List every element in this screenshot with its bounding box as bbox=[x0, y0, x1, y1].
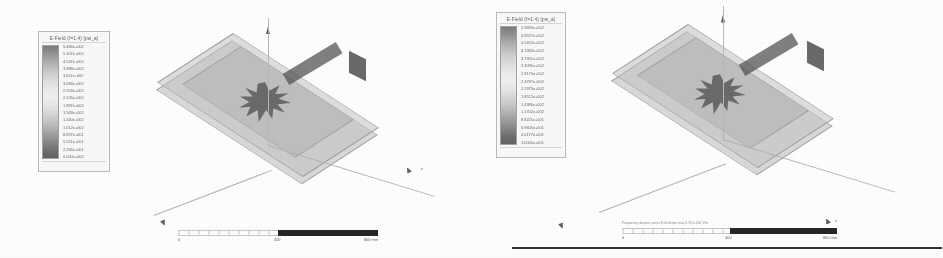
legend-footer-divider bbox=[42, 161, 106, 166]
legend-body: 5.3695e+002 4.9527e+002 4.5452e+002 4.13… bbox=[500, 26, 562, 145]
ruler-label-end: 800 mm bbox=[823, 235, 837, 240]
colorbar-tick: 8.837e+001 bbox=[63, 133, 106, 137]
colorbar-tick: 0.000e+000 bbox=[63, 155, 106, 159]
simulation-view-left: E-Field (f=1.4) [pw_a] 5.466e+002 5.107e… bbox=[0, 0, 500, 258]
colorbar-tick: 1.897e+002 bbox=[63, 104, 106, 108]
colorbar-tick: 4.0177e+001 bbox=[521, 133, 562, 137]
ruler-filled-segment bbox=[730, 228, 838, 234]
colorbar-tick: 4.5452e+002 bbox=[521, 41, 562, 45]
colorbar-tick-list: 5.3695e+002 4.9527e+002 4.5452e+002 4.13… bbox=[521, 26, 562, 145]
colorbar-tick: 1.569e+002 bbox=[63, 111, 106, 115]
colorbar-tick-list: 5.466e+002 5.107e+002 4.547e+002 3.988e+… bbox=[63, 45, 106, 159]
simulation-view-right: E-Field (f=1.4) [pw_a] 5.3695e+002 4.952… bbox=[490, 0, 943, 258]
colorbar-tick: 5.107e+002 bbox=[63, 52, 106, 56]
colorbar-tick: 2.226e+002 bbox=[63, 96, 106, 100]
ruler-label-mid: 400 bbox=[725, 235, 732, 240]
colorbar-tick: 5.551e+001 bbox=[63, 140, 106, 144]
ruler-label-row: 0 400 800 mm bbox=[178, 237, 378, 245]
axis-x-label: x bbox=[421, 166, 423, 171]
colorbar-tick: 2.9175e+002 bbox=[521, 72, 562, 76]
colorbar-legend-left[interactable]: E-Field (f=1.4) [pw_a] 5.466e+002 5.107e… bbox=[38, 31, 110, 172]
colorbar-tick: 3.3091e+002 bbox=[521, 64, 562, 68]
colorbar-tick: 1.8512e+002 bbox=[521, 95, 562, 99]
colorbar-tick: 1.4386e+002 bbox=[521, 103, 562, 107]
axis-z-line bbox=[268, 18, 269, 145]
legend-title: E-Field (f=1.4) [pw_a] bbox=[42, 36, 106, 43]
colorbar-legend-right[interactable]: E-Field (f=1.4) [pw_a] 5.3695e+002 4.952… bbox=[496, 12, 566, 158]
colorbar-tick: 3.988e+002 bbox=[63, 67, 106, 71]
ruler-label-start: 0 bbox=[622, 235, 624, 240]
colorbar-tick: 9.8221e+001 bbox=[521, 118, 562, 122]
scale-ruler-right[interactable]: Frequency domain solver E-field abs max … bbox=[622, 228, 837, 243]
colorbar-tick: 1.012e+002 bbox=[63, 126, 106, 130]
colorbar-tick: 3.611e+002 bbox=[63, 74, 106, 78]
colorbar-tick: 4.547e+002 bbox=[63, 60, 106, 64]
legend-body: 5.466e+002 5.107e+002 4.547e+002 3.988e+… bbox=[42, 45, 106, 159]
legend-footer-divider bbox=[500, 147, 562, 152]
ruler-track bbox=[622, 228, 837, 234]
colorbar-tick: 5.466e+002 bbox=[63, 45, 106, 49]
axis-z-line bbox=[723, 6, 724, 139]
colorbar-tick: 2.4797e+002 bbox=[521, 80, 562, 84]
colorbar-tick: 1.0005e+001 bbox=[521, 141, 562, 145]
colorbar-tick: 1.340e+002 bbox=[63, 118, 106, 122]
antenna-3d-model-right[interactable] bbox=[568, 6, 878, 221]
scale-ruler-left[interactable]: 0 400 800 mm bbox=[178, 230, 378, 245]
ruler-filled-segment bbox=[278, 230, 378, 236]
bottom-divider-rule bbox=[512, 247, 942, 249]
legend-title: E-Field (f=1.4) [pw_a] bbox=[500, 17, 562, 24]
ruler-label-mid: 400 bbox=[274, 237, 281, 242]
colorbar-tick: 6.9605e+001 bbox=[521, 126, 562, 130]
colorbar-tick: 3.7351e+002 bbox=[521, 57, 562, 61]
ruler-label-row: 0 400 800 mm bbox=[622, 235, 837, 243]
colorbar-tick: 2.266e+001 bbox=[63, 148, 106, 152]
colorbar-tick: 2.1973e+002 bbox=[521, 87, 562, 91]
ruler-label-end: 800 mm bbox=[364, 237, 378, 242]
colorbar-gradient bbox=[500, 26, 517, 145]
colorbar-gradient bbox=[42, 45, 59, 159]
colorbar-tick: 2.554e+002 bbox=[63, 89, 106, 93]
colorbar-tick: 4.9527e+002 bbox=[521, 34, 562, 38]
ruler-track bbox=[178, 230, 378, 236]
colorbar-tick: 5.3695e+002 bbox=[521, 26, 562, 30]
colorbar-tick: 3.083e+002 bbox=[63, 82, 106, 86]
ruler-label-start: 0 bbox=[178, 237, 180, 242]
axis-origin-arrow-icon-right bbox=[557, 221, 565, 229]
colorbar-tick: 4.1382e+002 bbox=[521, 49, 562, 53]
ruler-annotation: Frequency domain solver E-field abs max … bbox=[622, 221, 837, 225]
antenna-3d-model-left[interactable]: x bbox=[118, 18, 418, 223]
colorbar-tick: 1.1702e+002 bbox=[521, 110, 562, 114]
